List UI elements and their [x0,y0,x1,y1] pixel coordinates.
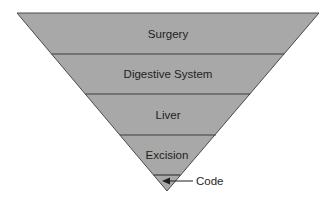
level-label-liver: Liver [156,109,181,121]
callout-label-code: Code [196,175,224,187]
level-label-digestive-system: Digestive System [124,68,213,80]
inverted-pyramid-diagram: Surgery Digestive System Liver Excision … [0,0,333,201]
level-label-excision: Excision [146,149,189,161]
level-label-surgery: Surgery [148,28,189,40]
